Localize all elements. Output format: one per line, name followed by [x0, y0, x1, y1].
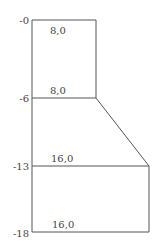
section-outline [32, 20, 149, 232]
width-label-0: 8,0 [50, 25, 66, 36]
width-label-18: 16,0 [52, 219, 74, 230]
depth-label-6: -6 [19, 93, 29, 104]
width-label-6: 8,0 [50, 85, 66, 96]
cross-section-diagram: -0 -6 -13 -18 8,0 8,0 16,0 16,0 [0, 0, 162, 252]
depth-label-0: -0 [19, 15, 29, 26]
depth-label-18: -18 [13, 228, 29, 239]
depth-label-13: -13 [13, 161, 29, 172]
width-label-13: 16,0 [51, 153, 73, 164]
